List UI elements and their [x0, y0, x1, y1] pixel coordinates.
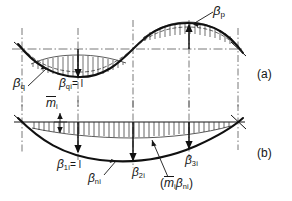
- leader-beta-q: [28, 68, 47, 86]
- label-product-mbar-sub: i: [174, 182, 176, 191]
- leader-beta-ni: [104, 161, 116, 175]
- arrow-beta-qi: [74, 49, 81, 78]
- label-beta-qi-base: β: [59, 76, 66, 90]
- label-beta-3i: β3i: [185, 154, 198, 166]
- label-product-beta-sub: ni: [183, 182, 189, 191]
- panel-b-station-lines: [22, 100, 238, 168]
- figure-root: βp βq βqi= l mi β1i= l βni β2i β3i (miβn…: [0, 0, 292, 201]
- diagram-canvas: [0, 0, 292, 201]
- label-product-mbar: m: [164, 176, 174, 189]
- panel-b: [14, 100, 246, 177]
- label-beta-1i-suffix: = l: [70, 159, 81, 170]
- label-m-bar-i-sub: i: [56, 102, 58, 111]
- label-beta-3i-sub: 3i: [192, 159, 198, 168]
- label-beta-2i-sub: 2i: [139, 171, 145, 180]
- label-beta-3i-base: β: [185, 153, 192, 167]
- leader-product-head: [152, 140, 157, 146]
- panel-a: [12, 12, 246, 108]
- label-beta-ni-base: β: [88, 171, 95, 185]
- label-m-bar-i-base: m: [46, 96, 56, 109]
- label-beta-1i: β1i= l: [57, 158, 81, 170]
- label-beta-2i-base: β: [132, 165, 139, 179]
- label-product-beta: β: [176, 176, 183, 190]
- label-beta-1i-base: β: [57, 157, 64, 171]
- label-beta-p-sub: p: [220, 10, 225, 19]
- label-beta-qi-suffix: = l: [72, 78, 83, 89]
- label-beta-q: βq: [13, 76, 25, 89]
- panel-a-station-lines: [22, 20, 238, 108]
- label-beta-1i-sub: 1i: [64, 163, 70, 172]
- curve-beta-q: [19, 27, 242, 72]
- leader-beta-p: [193, 12, 213, 24]
- label-beta-2i: β2i: [132, 166, 145, 178]
- label-m-bar-i: mi: [46, 96, 58, 109]
- label-beta-ni: βni: [88, 172, 101, 184]
- label-product-m-beta: (miβni): [160, 176, 193, 189]
- label-product-close-paren: ): [189, 176, 193, 190]
- arrow-beta-3i: [185, 122, 192, 150]
- panel-b-hatch-band: [32, 122, 231, 138]
- curve-beta-p: [18, 23, 243, 77]
- label-beta-qi: βqi= l: [59, 77, 83, 89]
- label-beta-qi-sub: qi: [66, 82, 72, 91]
- arrow-beta-1i: [74, 122, 81, 154]
- panel-tag-a: (a): [257, 67, 272, 81]
- arrow-beta-2i: [129, 122, 136, 162]
- panel-tag-b: (b): [257, 146, 272, 160]
- label-beta-p: βp: [213, 4, 225, 17]
- label-beta-q-sub: q: [20, 82, 25, 91]
- label-beta-ni-sub: ni: [95, 177, 101, 186]
- m-bar-measure: [54, 113, 67, 133]
